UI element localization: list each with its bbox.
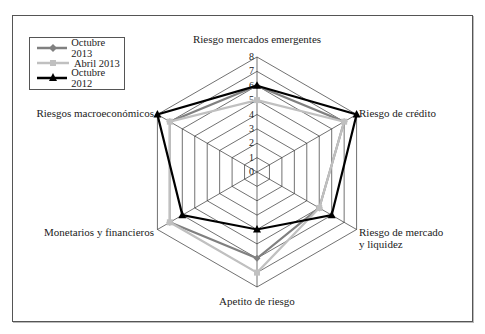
tick-label: 3 [249,123,254,134]
tick-label: 4 [249,109,254,120]
axis-label: Riesgo mercados emergentes [193,33,321,45]
data-point [341,119,347,125]
tick-label: 1 [249,152,254,163]
axis-label: y liquidez [359,238,403,250]
tick-label: 8 [249,51,254,62]
tick-label: 2 [249,137,254,148]
axis-label: Monetarios y financieros [44,226,154,238]
data-point [328,211,336,219]
square-marker-icon [36,57,70,69]
triangle-marker-icon [36,72,67,84]
data-point [254,97,260,103]
data-point [167,219,173,225]
legend-item-octubre-2013: Octubre 2013 [36,41,124,55]
axis-label: Riesgo de crédito [359,107,436,119]
legend: Octubre 2013 Abril 2013 Octubre 2012 [29,37,125,90]
axis-label: Riesgos macroeconómicos [36,107,154,119]
data-point [167,119,173,125]
tick-label: 0 [249,166,254,177]
data-point [316,205,322,211]
diamond-marker-icon [36,42,67,54]
tick-label: 5 [249,94,254,105]
data-point [254,270,260,276]
legend-item-octubre-2012: Octubre 2012 [36,71,124,85]
data-point [178,211,186,219]
legend-label: Octubre 2012 [71,67,124,89]
data-point [253,81,261,89]
axis-label: Riesgo de mercado [359,226,444,238]
tick-label: 7 [249,65,254,76]
axis-label: Apetito de riesgo [219,295,295,307]
